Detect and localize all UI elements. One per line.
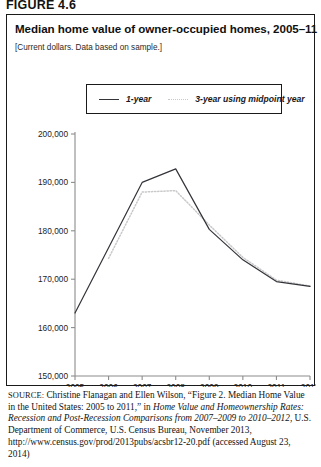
y-axis-tick-label: 160,000 xyxy=(38,323,68,333)
figure-label: FIGURE 4.6 xyxy=(6,0,76,12)
x-axis-tick-label: 2011 xyxy=(268,382,286,387)
y-axis-tick-label: 190,000 xyxy=(38,177,68,187)
source-kicker: SOURCE: xyxy=(8,391,44,400)
data-series-line xyxy=(109,191,310,286)
y-axis-tick-label: 180,000 xyxy=(38,226,68,236)
x-axis-tick-label: 2009 xyxy=(200,382,219,387)
chart-svg: 150,000160,000170,000180,000190,000200,0… xyxy=(7,15,316,387)
y-axis-tick-label: 200,000 xyxy=(38,129,68,139)
plot-area: 150,000160,000170,000180,000190,000200,0… xyxy=(7,15,316,387)
figure-page: FIGURE 4.6 Median home value of owner-oc… xyxy=(0,0,321,467)
x-axis-tick-label: 2006 xyxy=(99,382,118,387)
figure-box: Median home value of owner-occupied home… xyxy=(6,14,315,386)
x-axis-tick-label: 2012 xyxy=(301,382,316,387)
x-axis-tick-label: 2005 xyxy=(66,382,85,387)
x-axis-tick-label: 2008 xyxy=(166,382,185,387)
y-axis-tick-label: 150,000 xyxy=(38,371,68,381)
source-note: SOURCE: Christine Flanagan and Ellen Wil… xyxy=(8,390,314,460)
x-axis-tick-label: 2007 xyxy=(133,382,152,387)
x-axis-tick-label: 2010 xyxy=(234,382,253,387)
data-series-line xyxy=(75,169,310,313)
y-axis-tick-label: 170,000 xyxy=(38,274,68,284)
